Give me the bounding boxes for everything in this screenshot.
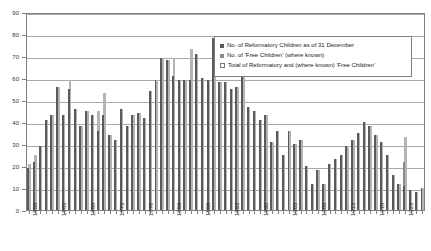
x-axis-tick-mark [260,211,261,214]
bar-reformatory-children [172,76,174,210]
x-axis-tick-mark [347,211,348,214]
x-axis-tick-mark [52,211,53,214]
bar-reformatory-children [178,80,180,210]
x-axis-tick-mark [416,211,417,214]
x-axis-tick-mark [197,211,198,214]
x-axis-tick-mark [318,211,319,214]
x-axis-tick-mark [393,211,394,214]
legend-item: No. of Reformatory Children as of 31 Dec… [220,42,408,49]
bar-reformatory-children [270,142,272,210]
x-axis-tick-label: 1873 [119,203,125,216]
x-axis-tick-mark [376,211,377,214]
bar-reformatory-children [241,58,243,210]
bar-reformatory-children [143,118,145,210]
bar-reformatory-children [207,80,209,210]
bar-reformatory-children [293,144,295,210]
bar-reformatory-children [380,142,382,210]
bar-reformatory-children [392,175,394,210]
x-axis-tick-mark [145,211,146,214]
y-axis-tick-label: 70 [12,54,19,60]
bar-reformatory-children [56,87,58,210]
bar-reformatory-children [235,87,237,210]
bar-reformatory-children [316,170,318,210]
x-axis-tick-mark [185,211,186,214]
bar-reformatory-children [345,146,347,210]
legend-label: No. of 'Free Children' (where known) [227,52,324,59]
x-axis-tick-mark [231,211,232,214]
bar-reformatory-children [160,58,162,210]
x-axis-tick-mark [301,211,302,214]
x-axis-tick-label: 1893 [234,203,240,216]
y-axis-tick-label: 60 [12,76,19,82]
x-axis-tick-mark [202,211,203,214]
y-axis-tick-label: 40 [12,120,19,126]
bar-reformatory-children [45,120,47,210]
bar-reformatory-children [253,111,255,210]
x-axis-tick-mark [46,211,47,214]
bar-reformatory-children [85,111,87,210]
x-axis-tick-mark [58,211,59,214]
y-axis: 0102030405060708090 [0,13,24,211]
x-axis-tick-mark [243,211,244,214]
x-axis-tick-mark [220,211,221,214]
x-axis-tick-mark [75,211,76,214]
x-axis-tick-mark [214,211,215,214]
x-axis-tick-label: 1863 [61,203,67,216]
bar-reformatory-children [264,115,266,210]
x-axis-tick-mark [312,211,313,214]
y-axis-tick-label: 90 [12,10,19,16]
x-axis-tick-mark [87,211,88,214]
bar-reformatory-children [27,168,29,210]
bar-group [420,12,426,210]
x-axis-tick-label: 1858 [32,203,38,216]
x-axis-tick-mark [341,211,342,214]
x-axis-tick-label: 1913 [350,203,356,216]
x-axis-tick-label: 1883 [176,203,182,216]
bar-reformatory-children [397,184,399,210]
legend-label: Total of Reformatory and (where known) '… [228,62,375,69]
x-axis-tick-mark [330,211,331,214]
bar-reformatory-children [114,140,116,210]
bar-reformatory-children [39,146,41,210]
x-axis-tick-mark [40,211,41,214]
x-axis-tick-mark [98,211,99,214]
legend-swatch-ref [220,44,224,48]
legend-swatch-free [220,54,224,58]
bar-reformatory-children [299,140,301,210]
bar-reformatory-children [305,166,307,210]
y-axis-tick-label: 20 [12,164,19,170]
bar-reformatory-children [74,109,76,210]
bar-reformatory-children [363,122,365,210]
legend-item: No. of 'Free Children' (where known) [220,52,408,59]
x-axis-tick-label: 1888 [205,203,211,216]
x-axis-tick-mark [127,211,128,214]
x-axis-tick-label: 1898 [263,203,269,216]
bar-reformatory-children [368,126,370,210]
bar-reformatory-children [247,107,249,210]
bar-reformatory-children [386,155,388,210]
bar-reformatory-children [288,131,290,210]
bar-reformatory-children [102,115,104,210]
x-axis-tick-label: 1878 [148,203,154,216]
y-axis-tick-label: 30 [12,142,19,148]
x-axis-tick-mark [168,211,169,214]
bar-reformatory-children [91,115,93,210]
x-axis-tick-mark [162,211,163,214]
bar-reformatory-children [137,113,139,210]
bar-reformatory-children [224,82,226,210]
bar-reformatory-children [189,80,191,210]
x-axis-tick-mark [156,211,157,214]
bar-reformatory-children [357,133,359,210]
bar-reformatory-children [183,80,185,210]
x-axis-tick-mark [405,211,406,214]
y-axis-tick-label: 80 [12,32,19,38]
bar-reformatory-children [166,60,168,210]
x-axis-tick-mark [191,211,192,214]
x-axis-tick-label: 1868 [90,203,96,216]
bar-reformatory-children [415,192,417,210]
bar-reformatory-children [276,131,278,210]
x-axis-tick-mark [359,211,360,214]
x-axis-tick-label: 1923 [408,203,414,216]
bar-reformatory-children [126,126,128,210]
x-axis-tick-mark [272,211,273,214]
